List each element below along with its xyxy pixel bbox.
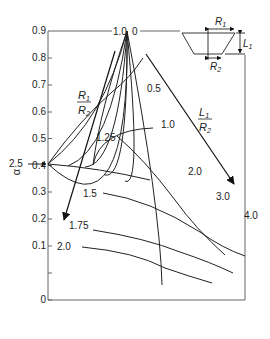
alpha-nomogram: 0 0.1 0.2 0.3 0.4 0.5 0.6 0.7 0.8 0.9 0.… — [0, 0, 270, 339]
svg-text:1.5: 1.5 — [83, 188, 97, 199]
svg-text:R1: R1 — [78, 89, 90, 102]
y-tick-label: 0.6 — [32, 106, 46, 117]
svg-text:3.0: 3.0 — [216, 191, 230, 202]
y-tick-label: 0.5 — [32, 133, 46, 144]
r-ratio-fraction: R1 R2 — [77, 89, 91, 117]
svg-text:1.75: 1.75 — [69, 220, 89, 231]
svg-text:0.5: 0.5 — [147, 83, 161, 94]
svg-text:L1: L1 — [243, 38, 253, 50]
svg-text:2.0: 2.0 — [188, 166, 202, 177]
svg-text:R2: R2 — [78, 104, 90, 117]
y-tick-label: 0.7 — [32, 79, 46, 90]
l-ratio-fraction: L1 R2 — [198, 106, 212, 134]
svg-text:1.25: 1.25 — [96, 132, 116, 143]
svg-text:R2: R2 — [199, 121, 211, 134]
r-ratio-value-labels: 1.25 1.5 1.75 2.0 2.5 — [9, 132, 116, 252]
y-tick-label: 0.9 — [32, 25, 46, 36]
svg-text:L1: L1 — [199, 106, 209, 119]
y-axis-tick-labels: 0 0.1 0.2 0.3 0.4 0.5 0.6 0.7 0.8 0.9 — [32, 25, 46, 305]
l-ratio-curves — [48, 31, 153, 184]
l-ratio-value-labels: 0.5 1.0 2.0 3.0 4.0 — [147, 83, 258, 221]
svg-text:R1: R1 — [215, 16, 226, 28]
frustum-inset-diagram — [182, 28, 245, 60]
y-axis-title: α — [10, 168, 22, 175]
y-tick-label: 0.8 — [32, 52, 46, 63]
y-tick-label: 0 — [40, 294, 46, 305]
svg-text:2.0: 2.0 — [57, 241, 71, 252]
y-tick-label: 0.3 — [32, 186, 46, 197]
svg-text:4.0: 4.0 — [244, 210, 258, 221]
y-tick-label: 0.4 — [32, 160, 46, 171]
svg-text:1.0: 1.0 — [161, 119, 175, 130]
apex-label-r: 1.0 — [113, 26, 127, 37]
y-axis-ticks — [48, 58, 52, 300]
y-tick-label: 0.1 — [32, 240, 46, 251]
l-ratio-direction-arrow — [146, 54, 234, 184]
apex-label-l: 0 — [132, 26, 138, 37]
svg-text:R2: R2 — [210, 61, 221, 73]
frustum-inset-labels: R1 R2 L1 — [210, 16, 253, 73]
svg-text:2.5: 2.5 — [9, 158, 23, 169]
y-tick-label: 0.2 — [32, 213, 46, 224]
